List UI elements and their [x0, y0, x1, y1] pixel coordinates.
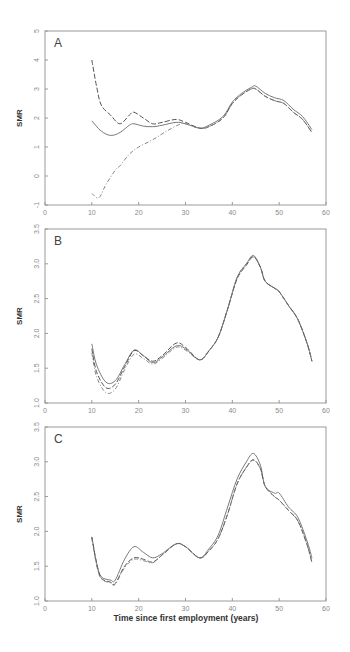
- y-tick-label: 2.0: [33, 328, 40, 338]
- x-tick-label: 20: [135, 407, 143, 414]
- figure: 0102030405060-1012345SMRA 01020304050601…: [0, 0, 350, 652]
- panel-label: B: [54, 234, 62, 248]
- x-tick-label: 0: [43, 605, 47, 612]
- series-line-long-dash: [92, 460, 312, 585]
- series-line-solid: [92, 255, 312, 383]
- y-tick-label: 3.5: [33, 422, 40, 432]
- panel-label: A: [54, 36, 62, 50]
- x-tick-label: 40: [228, 605, 236, 612]
- panel-c: 01020304050601.01.52.02.53.03.5SMRC: [15, 422, 330, 612]
- plot-frame: [45, 31, 326, 205]
- y-tick-label: 3.5: [33, 224, 40, 234]
- series-line-dash-dot: [92, 257, 312, 394]
- x-tick-label: 60: [322, 407, 330, 414]
- y-tick-label: 1.0: [33, 596, 40, 606]
- y-tick-label: 3: [33, 87, 40, 91]
- y-tick-label: 4: [33, 58, 40, 62]
- x-tick-label: 0: [43, 209, 47, 216]
- series-line-long-dash: [92, 60, 312, 133]
- y-tick-label: 1.5: [33, 561, 40, 571]
- x-tick-label: 30: [182, 605, 190, 612]
- y-axis-label: SMR: [15, 307, 24, 325]
- x-tick-label: 50: [275, 407, 283, 414]
- x-tick-label: 40: [228, 209, 236, 216]
- panel-a: 0102030405060-1012345SMRA: [15, 29, 330, 216]
- y-tick-label: 2: [33, 116, 40, 120]
- x-tick-label: 30: [182, 209, 190, 216]
- y-axis-label: SMR: [15, 109, 24, 127]
- x-tick-label: 50: [275, 605, 283, 612]
- x-axis-label: Time since first employment (years): [114, 613, 259, 623]
- plot-frame: [45, 229, 326, 403]
- y-tick-label: 1: [33, 145, 40, 149]
- y-tick-label: -1: [33, 202, 40, 208]
- x-tick-label: 30: [182, 407, 190, 414]
- series-line-solid: [92, 453, 312, 581]
- x-tick-label: 60: [322, 605, 330, 612]
- y-tick-label: 2.5: [33, 492, 40, 502]
- plot-frame: [45, 427, 326, 601]
- y-tick-label: 3.0: [33, 259, 40, 269]
- y-tick-label: 3.0: [33, 457, 40, 467]
- y-tick-label: 1.0: [33, 398, 40, 408]
- x-tick-label: 50: [275, 209, 283, 216]
- y-tick-label: 0: [33, 174, 40, 178]
- panel-label: C: [54, 432, 63, 446]
- x-tick-label: 10: [88, 209, 96, 216]
- y-tick-label: 5: [33, 29, 40, 33]
- x-tick-label: 20: [135, 209, 143, 216]
- series-line-long-dash: [92, 257, 312, 389]
- x-tick-label: 10: [88, 407, 96, 414]
- y-tick-label: 2.0: [33, 526, 40, 536]
- x-tick-label: 60: [322, 209, 330, 216]
- x-tick-label: 10: [88, 605, 96, 612]
- x-tick-label: 20: [135, 605, 143, 612]
- x-tick-label: 40: [228, 407, 236, 414]
- y-tick-label: 2.5: [33, 294, 40, 304]
- series-line-dash-dot: [92, 88, 312, 198]
- y-axis-label: SMR: [15, 505, 24, 523]
- x-tick-label: 0: [43, 407, 47, 414]
- panel-b: 01020304050601.01.52.02.53.03.5SMRB: [15, 224, 330, 414]
- y-tick-label: 1.5: [33, 363, 40, 373]
